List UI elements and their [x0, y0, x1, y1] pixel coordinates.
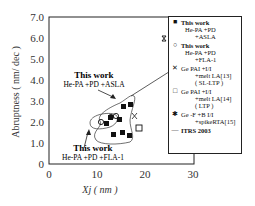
data-point [128, 102, 133, 107]
filled-square-icon: ■ [171, 19, 179, 26]
annotation-fla1-sub: He-PA +PD +FLA-1 [62, 153, 124, 162]
legend-line: +melt LA[13] [181, 72, 241, 79]
series-ge-f-spike-point [162, 36, 166, 41]
legend-line: Ge PAI +I/I [181, 65, 241, 72]
x-tick-0: 0 [46, 168, 52, 180]
series-asla [104, 102, 133, 138]
data-point [98, 119, 103, 124]
annotation-fla1-title: This work [73, 143, 112, 153]
open-square-icon: □ [171, 88, 179, 95]
legend-title: ITRS 2003 [181, 127, 241, 134]
legend-line: He-PA +PD [181, 49, 241, 56]
legend-line: Ge -F +B I/I [181, 111, 241, 118]
annotation-asla-sub: He-PA +PD +ASLA [63, 80, 125, 89]
data-point [121, 104, 126, 109]
x-tick-20: 20 [140, 168, 152, 180]
data-point [104, 121, 109, 126]
data-point [120, 130, 125, 135]
x-mark-icon: ✕ [171, 65, 179, 72]
legend-item-ge-pai-14: □ Ge PAI +I/I +melt LA[14] ( LTP ) [169, 88, 241, 109]
legend-title: This work [181, 42, 241, 49]
legend-item-itrs: — ITRS 2003 [169, 127, 241, 134]
y-tick-5: 5.0 [30, 53, 44, 65]
x-tick-10: 10 [92, 168, 104, 180]
legend-item-ge-pai-13: ✕ Ge PAI +I/I +melt LA[13] ( SL-LTP ) [169, 65, 241, 86]
arrowhead-icon [86, 129, 91, 135]
legend-item-fla1: ○ This work He-PA +PD +FLA-1 [169, 42, 241, 63]
legend-line: ( SL-LTP ) [181, 79, 241, 86]
y-tick-3: 3.0 [30, 95, 44, 107]
legend-line: Ge PAI +I/I [181, 88, 241, 95]
legend-line: +ASLA [181, 33, 241, 40]
asterisk-icon: ✱ [171, 111, 179, 118]
y-tick-4: 4.0 [30, 74, 44, 86]
y-tick-2: 2.0 [30, 116, 44, 128]
y-tick-1: 1.0 [30, 137, 44, 149]
x-tick-30: 30 [188, 168, 200, 180]
legend-line: +melt LA[14] [181, 95, 241, 102]
x-axis-title: Xj ( nm ) [81, 184, 118, 196]
y-tick-0: 0 [39, 158, 45, 170]
legend: ■ This work He-PA +PD +ASLA ○ This work … [168, 16, 242, 154]
y-tick-6: 6.0 [30, 32, 44, 44]
annotation-asla-title: This work [74, 70, 113, 80]
y-tick-7: 7.0 [30, 11, 44, 23]
data-point [113, 113, 118, 118]
line-icon: — [171, 127, 179, 134]
legend-line: +spikeRTA[15] [181, 118, 241, 125]
legend-item-asla: ■ This work He-PA +PD +ASLA [169, 19, 241, 40]
legend-line: +FLA-1 [181, 56, 241, 63]
data-point [111, 132, 116, 137]
series-ge-pai-13 [132, 113, 137, 119]
arrowhead-icon [110, 94, 116, 99]
series-ge-pai-14-point [136, 125, 142, 131]
data-point [127, 133, 132, 138]
legend-line: He-PA +PD [181, 26, 241, 33]
y-axis-title: Abruptness ( nm/ dec ) [10, 46, 22, 138]
legend-line: ( LTP ) [181, 102, 241, 109]
annotation-asla-arrow [98, 90, 113, 97]
legend-item-ge-f-spike: ✱ Ge -F +B I/I +spikeRTA[15] [169, 111, 241, 125]
open-circle-icon: ○ [171, 42, 179, 49]
legend-title: This work [181, 19, 241, 26]
